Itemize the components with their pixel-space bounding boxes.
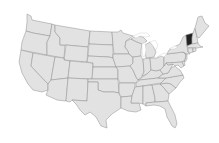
- state-wyoming[interactable]: [64, 45, 88, 62]
- state-connecticut[interactable]: [188, 48, 193, 53]
- state-rhode-island[interactable]: [193, 48, 196, 52]
- state-new-mexico[interactable]: [66, 78, 88, 102]
- state-maine[interactable]: [195, 16, 209, 38]
- state-colorado[interactable]: [68, 61, 93, 79]
- state-north-dakota[interactable]: [89, 31, 113, 45]
- state-kansas[interactable]: [92, 67, 118, 79]
- lake-michigan: [142, 42, 146, 57]
- state-florida[interactable]: [146, 101, 177, 128]
- us-map-svg: [0, 0, 219, 143]
- state-south-dakota[interactable]: [88, 44, 113, 58]
- state-iowa[interactable]: [113, 54, 133, 67]
- us-map: [0, 0, 219, 143]
- state-montana[interactable]: [55, 25, 90, 47]
